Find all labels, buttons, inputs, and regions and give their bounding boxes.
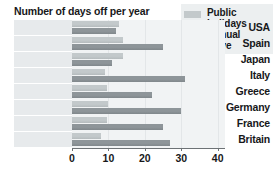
bar-public-holidays [72,69,105,75]
category-label-background [14,52,72,67]
category-label-background [14,36,72,51]
bar-row: Britain [0,132,273,148]
bar-public-holidays [72,85,107,91]
bar-annual-leave [72,28,116,34]
bar-row: Greece [0,84,273,100]
x-axis: 010203040 [0,148,273,169]
tick-mark [218,148,219,151]
tick-label: 0 [69,152,75,164]
bar-public-holidays [72,53,123,59]
category-label: Greece [236,85,270,97]
bar-annual-leave [72,44,163,50]
legend-swatch-public-holidays [184,11,201,18]
bar-annual-leave [72,108,181,114]
category-label: USA [248,21,270,33]
bar-row: Japan [0,52,273,68]
category-label-background [14,20,72,35]
category-label: Spain [242,37,270,49]
bar-annual-leave [72,60,112,66]
tick-label: 40 [212,152,224,164]
bar-row: USA [0,20,273,36]
bar-row: Germany [0,100,273,116]
category-label-background [14,68,72,83]
bar-annual-leave [72,124,163,130]
x-axis-line [72,148,225,149]
category-label-background [14,132,72,147]
bar-row: Spain [0,36,273,52]
tick-mark [72,148,73,151]
category-label: Britain [238,133,270,145]
category-label: Italy [250,69,270,81]
category-label-background [14,116,72,131]
tick-mark [145,148,146,151]
category-label: Germany [226,101,270,113]
category-label: Japan [241,53,270,65]
chart-title: Number of days off per year [14,5,149,17]
category-label-background [14,100,72,115]
bar-public-holidays [72,133,101,139]
tick-label: 20 [139,152,151,164]
bar-public-holidays [72,101,108,107]
category-label: France [237,117,270,129]
tick-label: 30 [175,152,187,164]
bar-chart: Number of days off per year Public holid… [0,0,273,169]
tick-label: 10 [103,152,115,164]
bar-public-holidays [72,37,123,43]
bar-annual-leave [72,92,152,98]
category-label-background [14,84,72,99]
bar-annual-leave [72,140,170,146]
bar-public-holidays [72,117,107,123]
bar-public-holidays [72,21,119,27]
tick-mark [181,148,182,151]
plot-area: USASpainJapanItalyGreeceGermanyFranceBri… [0,20,273,152]
bar-row: Italy [0,68,273,84]
bar-row: France [0,116,273,132]
bar-annual-leave [72,76,185,82]
tick-mark [108,148,109,151]
